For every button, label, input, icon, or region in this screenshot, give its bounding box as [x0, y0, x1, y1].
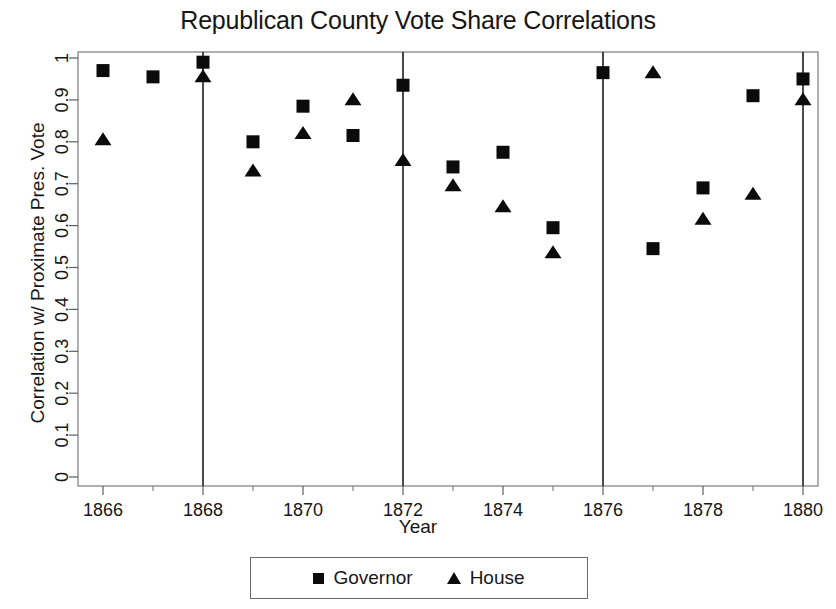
data-point-triangle: [745, 187, 762, 200]
y-tick-label: 0.2: [52, 381, 72, 406]
data-point-triangle: [295, 126, 312, 139]
data-point-triangle: [645, 65, 662, 78]
square-marker-icon: [313, 573, 324, 584]
y-tick-label: 0: [52, 472, 72, 482]
data-point-square: [97, 64, 110, 77]
chart-legend: Governor House: [250, 557, 588, 599]
data-point-triangle: [795, 92, 812, 105]
y-tick-label: 1: [52, 53, 72, 63]
data-point-square: [397, 79, 410, 92]
data-point-square: [347, 129, 360, 142]
legend-label-governor: Governor: [333, 567, 412, 589]
data-point-square: [797, 72, 810, 85]
data-point-square: [247, 135, 260, 148]
legend-item-governor: Governor: [313, 567, 412, 589]
data-point-square: [647, 242, 660, 255]
y-tick-label: 0.9: [52, 87, 72, 112]
data-point-triangle: [495, 199, 512, 212]
legend-item-house: House: [447, 567, 525, 589]
data-point-square: [547, 221, 560, 234]
x-axis-label: Year: [0, 516, 836, 538]
data-point-square: [697, 181, 710, 194]
data-point-triangle: [95, 132, 112, 145]
data-point-triangle: [395, 153, 412, 166]
data-point-triangle: [195, 69, 212, 82]
y-tick-label: 0.6: [52, 213, 72, 238]
data-point-square: [197, 56, 210, 69]
data-point-square: [297, 100, 310, 113]
y-tick-label: 0.8: [52, 129, 72, 154]
data-point-square: [447, 160, 460, 173]
y-tick-label: 0.1: [52, 423, 72, 448]
data-point-triangle: [545, 245, 562, 258]
data-point-triangle: [695, 212, 712, 225]
y-tick-label: 0.4: [52, 297, 72, 322]
data-point-triangle: [245, 164, 262, 177]
triangle-marker-icon: [447, 572, 461, 584]
legend-label-house: House: [470, 567, 525, 589]
data-point-square: [147, 70, 160, 83]
data-point-triangle: [345, 92, 362, 105]
data-point-square: [597, 66, 610, 79]
data-point-square: [497, 146, 510, 159]
y-tick-label: 0.3: [52, 339, 72, 364]
y-tick-label: 0.5: [52, 255, 72, 280]
chart-figure: Republican County Vote Share Correlation…: [0, 0, 836, 609]
y-tick-label: 0.7: [52, 171, 72, 196]
data-point-triangle: [445, 178, 462, 191]
data-point-square: [747, 89, 760, 102]
